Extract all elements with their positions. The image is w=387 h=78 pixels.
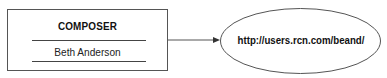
arrowhead-icon <box>213 37 220 43</box>
url-label: http://users.rcn.com/beand/ <box>231 34 370 46</box>
